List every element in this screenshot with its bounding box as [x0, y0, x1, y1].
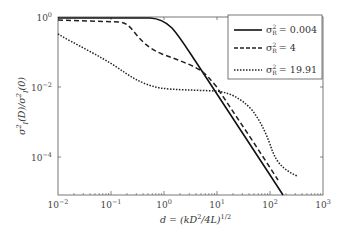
legend-label-1: σ2R= 4	[266, 41, 296, 54]
legend: σ2R= 0.004 σ2R= 4 σ2R= 19.91	[228, 15, 322, 79]
y-tick-label: 100	[36, 11, 52, 23]
x-tick-labels: 10−2 10−1 100 101 102 103	[47, 198, 330, 210]
y-tick-label: 10−4	[31, 151, 52, 163]
legend-label-2: σ2R= 19.91	[266, 63, 317, 76]
x-tick-label: 101	[209, 198, 225, 210]
y-tick-labels: 100 10−2 10−4	[31, 11, 52, 163]
x-tick-label: 10−2	[47, 198, 68, 210]
x-tick-label: 102	[262, 198, 278, 210]
y-tick-label: 10−2	[31, 81, 52, 93]
x-tick-label: 103	[315, 198, 331, 210]
y-axis-label: σ2I(D)/σ2I(0)	[15, 77, 30, 135]
x-tick-label: 100	[156, 198, 172, 210]
legend-label-0: σ2R= 0.004	[266, 23, 317, 36]
x-tick-label: 10−1	[100, 198, 121, 210]
chart: 10−2 10−1 100 101 102 103 100 10−2 10−4 …	[0, 0, 348, 233]
x-axis-label: d = (kD2/4L)1/2	[160, 213, 231, 225]
